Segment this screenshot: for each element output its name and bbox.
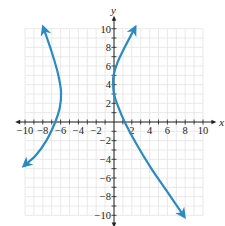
x-tick-label: 6 bbox=[165, 125, 170, 136]
x-axis-arrow-right-icon bbox=[211, 120, 216, 125]
x-axis-arrow-left-icon bbox=[15, 120, 20, 125]
x-tick-label: −10 bbox=[17, 125, 33, 136]
y-tick-label: −2 bbox=[100, 135, 111, 146]
y-tick-label: 6 bbox=[106, 61, 111, 72]
y-tick-label: 2 bbox=[106, 98, 111, 109]
y-tick-label: 8 bbox=[106, 42, 111, 53]
x-tick-label: 8 bbox=[183, 125, 188, 136]
y-tick-label: −6 bbox=[100, 173, 111, 184]
y-tick-label: 4 bbox=[106, 79, 112, 90]
y-tick-label: −8 bbox=[100, 191, 111, 202]
y-axis-arrow-up-icon bbox=[112, 16, 117, 21]
x-tick-label: −2 bbox=[91, 125, 102, 136]
y-tick-label: −4 bbox=[100, 154, 112, 165]
y-tick-label: −10 bbox=[95, 210, 111, 221]
graph: −10−8−6−4−2246810−10−8−6−4−2246810 x y bbox=[0, 0, 225, 226]
x-tick-label: −6 bbox=[55, 125, 66, 136]
x-tick-label: −4 bbox=[73, 125, 85, 136]
y-axis-label: y bbox=[110, 4, 116, 16]
x-axis-label: x bbox=[218, 116, 224, 128]
x-tick-label: −8 bbox=[37, 125, 48, 136]
x-tick-label: 10 bbox=[198, 125, 209, 136]
x-tick-label: 4 bbox=[147, 125, 153, 136]
y-tick-label: 10 bbox=[101, 24, 112, 35]
y-axis-arrow-down-icon bbox=[112, 222, 117, 226]
